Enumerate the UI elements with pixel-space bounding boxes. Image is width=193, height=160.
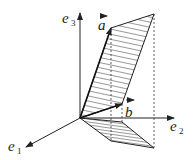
- parallelogram-ab: [80, 14, 154, 118]
- label-e2: e 2: [170, 118, 184, 136]
- svg-text:e: e: [62, 10, 69, 26]
- svg-text:a: a: [98, 17, 106, 33]
- svg-text:2: 2: [179, 126, 184, 136]
- projection-parallelogram: [80, 118, 154, 148]
- svg-text:e: e: [8, 138, 15, 154]
- axis-e1: [26, 118, 80, 147]
- svg-text:e: e: [170, 118, 177, 134]
- label-a: a: [98, 16, 107, 33]
- label-b: b: [125, 100, 134, 120]
- svg-text:3: 3: [71, 18, 76, 28]
- svg-text:1: 1: [17, 146, 22, 156]
- svg-text:b: b: [125, 104, 133, 120]
- label-e1: e 1: [8, 138, 22, 156]
- label-e3: e 3: [62, 10, 76, 28]
- vector-diagram: e 3 e 2 e 1 a b: [0, 0, 193, 160]
